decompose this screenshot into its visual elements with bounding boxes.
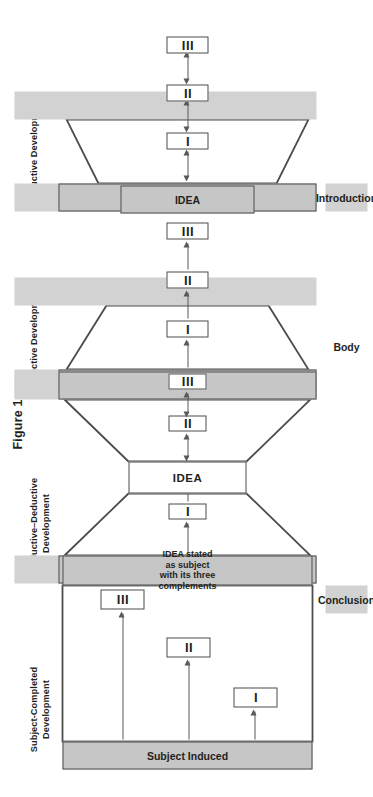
label-body: Body — [325, 257, 367, 437]
deductive-arrowhead-2a — [183, 126, 189, 132]
inductive-conclusion-wrap: IDEA — [58, 185, 316, 397]
label-introduction: Introduction — [325, 183, 367, 211]
deductive-arrowhead-3a — [183, 78, 189, 84]
label-conclusion: Conclusion — [325, 585, 367, 613]
subcomp-header-line1: Subject-Completed — [28, 649, 40, 769]
figure-title: Figure 1 — [10, 399, 24, 449]
subcomp-conclusion-block: IDEA stated as subject with its three co… — [62, 555, 312, 585]
panel-subject-completed-header: Subject-Completed Development — [28, 649, 51, 769]
deductive-arrowhead-2b — [183, 99, 189, 105]
panel-subject-completed-development: Subject-Completed Development Subject In… — [58, 649, 316, 769]
deductive-item-1: I — [166, 132, 208, 149]
indded-conclusion-block — [58, 371, 316, 399]
deductive-arrow-3 — [187, 53, 188, 80]
deductive-arrowhead-1a — [183, 175, 189, 181]
deductive-arrowhead-1b — [183, 149, 189, 155]
deductive-conclusion-rail — [14, 91, 316, 119]
subcomp-subject-induced-block: Subject Induced — [62, 741, 312, 769]
inductive-idea-block: IDEA — [120, 185, 254, 213]
subcomp-header-line2: Development — [40, 649, 52, 769]
deductive-item-3: III — [166, 36, 208, 53]
deductive-arrowhead-3b — [183, 51, 189, 57]
figure-canvas: Figure 1 Deductive Development IDEA I II — [0, 0, 373, 797]
section-label-rail: Introduction Body Conclusion — [325, 0, 367, 797]
